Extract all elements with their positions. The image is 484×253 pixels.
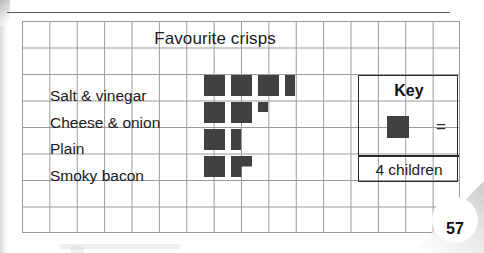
pictogram-symbol-full <box>204 129 225 150</box>
symbol-strip-smoky-bacon <box>204 156 258 182</box>
pictogram-symbol-full <box>231 75 252 96</box>
page-number: 57 <box>438 217 472 241</box>
row-label-salt-and-vinegar: Salt & vinegar <box>50 85 147 107</box>
pictogram-symbol-three-quarter <box>231 156 252 177</box>
key-title: Key <box>359 78 459 104</box>
key-value-label: 4 children <box>359 157 459 182</box>
key-symbol-swatch <box>387 116 409 138</box>
symbol-strip-plain <box>204 129 247 155</box>
key-equals-sign: = <box>431 116 451 138</box>
pictogram-symbol-quarter <box>258 102 268 112</box>
row-label-cheese-and-onion: Cheese & onion <box>50 112 160 134</box>
row-label-smoky-bacon: Smoky bacon <box>50 165 144 187</box>
key-legend-box: Key = 4 children <box>358 75 458 182</box>
worksheet-page: Favourite crisps Salt & vinegar Cheese &… <box>0 0 484 253</box>
pictogram-symbol-full <box>231 102 252 123</box>
pictogram-symbol-full <box>204 75 225 96</box>
scan-smudge <box>70 245 84 253</box>
row-label-plain: Plain <box>50 138 84 160</box>
pictogram-symbol-half <box>231 129 241 150</box>
symbol-strip-cheese-and-onion <box>204 102 274 128</box>
pictogram-symbol-full <box>204 156 225 177</box>
symbol-strip-salt-and-vinegar <box>204 75 301 101</box>
pictogram-symbol-full <box>258 75 279 96</box>
pictogram-symbol-full <box>204 102 225 123</box>
pictogram-symbol-half <box>285 75 295 96</box>
